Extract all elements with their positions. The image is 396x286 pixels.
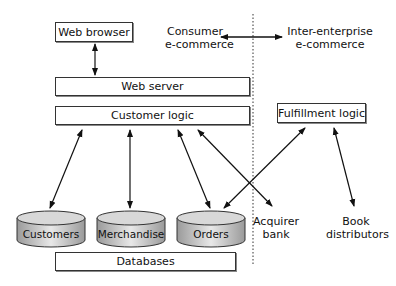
web-browser-box: Web browser: [55, 22, 133, 42]
inter-enterprise-label: Inter-enterprisee-commerce: [284, 25, 376, 51]
merchandise-label: Merchandise: [96, 228, 166, 240]
merchandise-database-icon: Merchandise: [96, 210, 166, 248]
customers-database-icon: Customers: [16, 210, 86, 248]
databases-box: Databases: [55, 252, 236, 271]
orders-database-icon: Orders: [176, 210, 246, 248]
customer-logic-label: Customer logic: [111, 109, 194, 122]
web-server-label: Web server: [121, 80, 183, 93]
book-distributors-label: Bookdistributors: [326, 215, 386, 241]
fulfillment-logic-label: Fulfillment logic: [278, 107, 365, 120]
web-browser-label: Web browser: [58, 26, 130, 39]
customer-logic-box: Customer logic: [55, 106, 250, 125]
databases-label: Databases: [116, 255, 174, 268]
web-server-box: Web server: [55, 77, 250, 96]
customers-label: Customers: [16, 228, 86, 240]
orders-label: Orders: [176, 228, 246, 240]
consumer-ecommerce-label: Consumere-commerce: [165, 25, 225, 51]
acquirer-bank-label: Acquirerbank: [252, 215, 300, 241]
fulfillment-logic-box: Fulfillment logic: [277, 103, 366, 123]
